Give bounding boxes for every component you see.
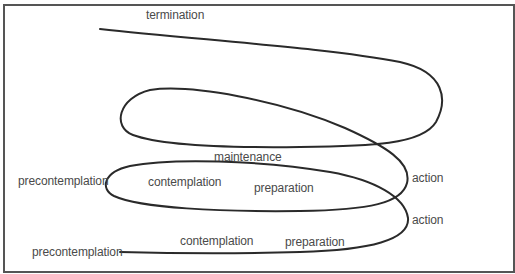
stage-label-action-upper: action (412, 171, 443, 185)
stage-label-action-lower: action (412, 213, 443, 227)
spiral-path-graphic (0, 0, 515, 274)
stage-label-preparation-lower: preparation (285, 235, 345, 249)
stage-label-maintenance: maintenance (214, 150, 282, 164)
spiral-curve (100, 29, 442, 253)
stage-label-precontemplation-upper: precontemplation (18, 174, 108, 188)
stage-label-preparation-upper: preparation (254, 181, 314, 195)
stage-label-termination: termination (146, 8, 204, 22)
stage-label-contemplation-upper: contemplation (148, 175, 221, 189)
stage-label-precontemplation-lower: precontemplation (32, 245, 122, 259)
stage-label-contemplation-lower: contemplation (180, 234, 253, 248)
